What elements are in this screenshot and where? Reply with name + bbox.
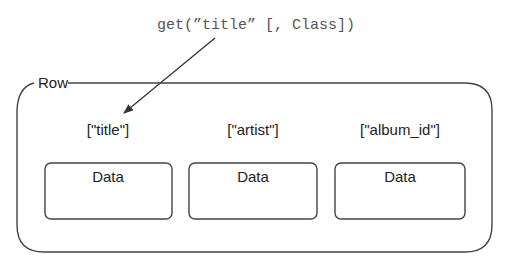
method-call-text: get(”title” [, Class])	[157, 17, 355, 34]
field-album-id: ["album_id"] Data	[335, 121, 465, 219]
field-title: ["title"] Data	[45, 121, 172, 219]
field-key: ["album_id"]	[360, 121, 440, 138]
field-value: Data	[237, 168, 269, 185]
row-label: Row	[38, 74, 68, 91]
arrow-icon	[124, 38, 215, 113]
row-get-diagram: get(”title” [, Class]) Row ["title"] Dat…	[0, 0, 509, 264]
field-value: Data	[384, 168, 416, 185]
field-key: ["artist"]	[227, 121, 279, 138]
field-artist: ["artist"] Data	[189, 121, 317, 219]
field-key: ["title"]	[87, 121, 129, 138]
field-value: Data	[92, 168, 124, 185]
